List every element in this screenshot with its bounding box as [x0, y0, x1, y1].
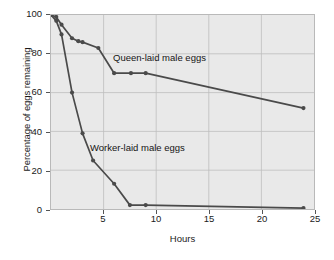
plot-area	[50, 14, 315, 210]
y-tick-label: 100	[2, 8, 42, 19]
y-tick-mark	[46, 92, 50, 93]
y-axis-title: Percentage of eggs remaining	[21, 15, 32, 205]
y-tick-label: 0	[2, 204, 42, 215]
x-tick-label: 20	[247, 213, 277, 224]
x-tick-label: 25	[300, 213, 330, 224]
gridlines	[51, 15, 314, 209]
chart-figure: Percentage of eggs remaining 02040608010…	[0, 0, 334, 260]
plot-canvas	[51, 15, 314, 209]
x-axis-title: Hours	[50, 233, 315, 244]
x-tick-label: 15	[194, 213, 224, 224]
x-tick-mark	[262, 210, 263, 214]
x-tick-mark	[103, 210, 104, 214]
y-tick-mark	[46, 171, 50, 172]
y-tick-label: 20	[2, 165, 42, 176]
y-tick-mark	[46, 132, 50, 133]
x-tick-label: 10	[141, 213, 171, 224]
x-tick-mark	[156, 210, 157, 214]
series-label-worker-laid: Worker-laid male eggs	[90, 142, 185, 153]
x-tick-label: 5	[88, 213, 118, 224]
x-tick-mark	[209, 210, 210, 214]
y-tick-mark	[46, 14, 50, 15]
y-tick-label: 60	[2, 86, 42, 97]
y-tick-mark	[46, 53, 50, 54]
y-tick-label: 40	[2, 126, 42, 137]
x-tick-mark	[315, 210, 316, 214]
series-label-queen-laid: Queen-laid male eggs	[113, 52, 206, 63]
y-tick-mark	[46, 210, 50, 211]
y-tick-label: 80	[2, 47, 42, 58]
